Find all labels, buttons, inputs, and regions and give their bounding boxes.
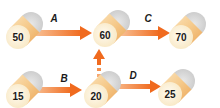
node-70: 70 [169,12,206,49]
edge-label-a: A [49,13,57,24]
node-label: 20 [90,91,102,102]
node-label: 50 [12,32,24,43]
node-label: 70 [175,32,187,43]
node-50: 50 [6,12,43,49]
node-label: 25 [164,89,176,100]
node-15: 15 [6,71,43,108]
cylinder-flow-diagram: A C B D 50 60 70 15 20 [0,0,220,108]
node-label: 15 [12,91,24,102]
node-60: 60 [93,10,130,47]
edge-label-c: C [144,13,152,24]
edge-label-b: B [60,73,67,84]
node-25: 25 [158,69,195,106]
edge-label-d: D [129,70,136,81]
node-20: 20 [84,71,121,108]
node-label: 60 [99,30,111,41]
